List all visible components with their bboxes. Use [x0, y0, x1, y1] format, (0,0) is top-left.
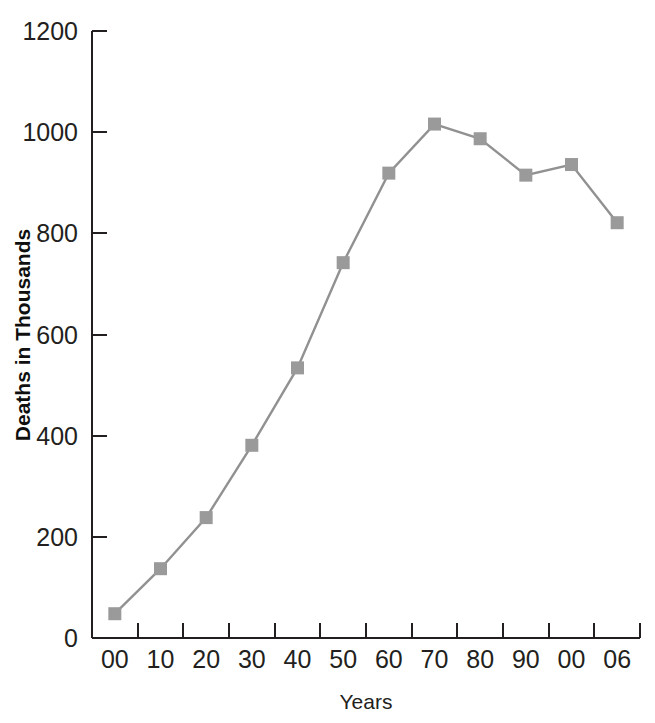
x-axis-title: Years — [340, 690, 393, 713]
x-tick-label: 80 — [466, 645, 494, 673]
y-axis-title: Deaths in Thousands — [11, 229, 34, 441]
chart-figure: 020040060080010001200 001020304050607080… — [0, 0, 655, 723]
x-tick-label: 20 — [192, 645, 220, 673]
line-chart: 020040060080010001200 001020304050607080… — [0, 0, 655, 723]
data-point-marker — [382, 167, 395, 180]
chart-background — [0, 0, 655, 723]
data-point-marker — [519, 169, 532, 182]
y-tick-label: 800 — [36, 219, 78, 247]
x-tick-label: 10 — [147, 645, 175, 673]
data-point-marker — [337, 256, 350, 269]
data-point-marker — [565, 158, 578, 171]
y-tick-label: 400 — [36, 422, 78, 450]
y-tick-label: 0 — [64, 624, 78, 652]
data-point-marker — [245, 439, 258, 452]
data-point-marker — [428, 118, 441, 131]
y-tick-label: 200 — [36, 523, 78, 551]
data-point-marker — [611, 216, 624, 229]
x-tick-label: 00 — [101, 645, 129, 673]
x-tick-label: 50 — [329, 645, 357, 673]
x-tick-label: 40 — [284, 645, 312, 673]
x-tick-label: 06 — [603, 645, 631, 673]
data-point-marker — [474, 132, 487, 145]
y-tick-label: 1200 — [22, 17, 78, 45]
data-point-marker — [154, 562, 167, 575]
data-point-marker — [108, 607, 121, 620]
x-tick-label: 90 — [512, 645, 540, 673]
y-tick-label: 1000 — [22, 118, 78, 146]
data-point-marker — [291, 361, 304, 374]
x-tick-label: 70 — [421, 645, 449, 673]
x-tick-label: 30 — [238, 645, 266, 673]
data-point-marker — [200, 511, 213, 524]
x-tick-label: 00 — [558, 645, 586, 673]
y-tick-label: 600 — [36, 321, 78, 349]
x-tick-label: 60 — [375, 645, 403, 673]
